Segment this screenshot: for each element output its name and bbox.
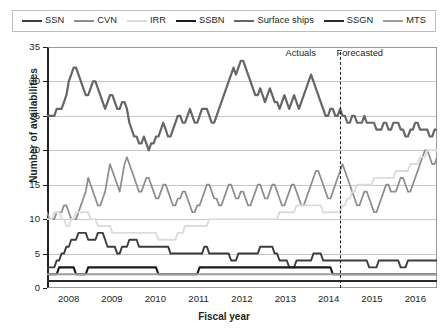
- series-svg: [47, 47, 437, 288]
- x-axis-title: Fiscal year: [0, 311, 448, 322]
- legend-swatch-icon: [74, 20, 94, 22]
- legend-label: SSN: [45, 16, 64, 26]
- legend-item-ssbn[interactable]: SSBN: [176, 16, 224, 26]
- legend-label: MTS: [406, 16, 426, 26]
- annotation-forecasted: Forecasted: [337, 48, 384, 58]
- legend-swatch-icon: [22, 20, 42, 22]
- legend-label: SSGN: [347, 16, 373, 26]
- x-tick-label: 2016: [393, 293, 437, 304]
- chart-root: SSNCVNIRRSSBNSurface shipsSSGNMTS 051015…: [0, 0, 448, 331]
- chart-legend: SSNCVNIRRSSBNSurface shipsSSGNMTS: [12, 10, 436, 32]
- annotation-actuals: Actuals: [286, 48, 317, 58]
- legend-label: SSBN: [199, 16, 224, 26]
- legend-label: Surface ships: [257, 16, 313, 26]
- legend-item-irr[interactable]: IRR: [127, 16, 166, 26]
- legend-label: IRR: [150, 16, 166, 26]
- legend-swatch-icon: [127, 20, 147, 22]
- x-tick-label: 2015: [350, 293, 394, 304]
- series-line-ssbn: [47, 267, 437, 274]
- series-line-ssn: [47, 233, 437, 267]
- legend-item-surface-ships[interactable]: Surface ships: [234, 16, 313, 26]
- y-tick-mark: [43, 288, 47, 289]
- x-tick-label: 2013: [263, 293, 307, 304]
- x-tick-label: 2010: [133, 293, 177, 304]
- series-line-surface-ships: [47, 61, 437, 151]
- x-tick-label: 2012: [220, 293, 264, 304]
- y-tick-label: 5: [10, 248, 40, 259]
- legend-label: CVN: [97, 16, 117, 26]
- series-line-cvn: [47, 150, 437, 219]
- legend-item-mts[interactable]: MTS: [383, 16, 426, 26]
- legend-item-cvn[interactable]: CVN: [74, 16, 117, 26]
- y-tick-label: 0: [10, 282, 40, 293]
- forecast-divider: [340, 52, 341, 288]
- legend-item-ssn[interactable]: SSN: [22, 16, 64, 26]
- x-tick-label: 2011: [177, 293, 221, 304]
- series-layer: [47, 47, 437, 288]
- series-line-irr: [47, 150, 437, 240]
- x-tick-label: 2014: [307, 293, 351, 304]
- x-tick-label: 2009: [90, 293, 134, 304]
- x-tick-label: 2008: [47, 293, 91, 304]
- legend-item-ssgn[interactable]: SSGN: [324, 16, 373, 26]
- legend-swatch-icon: [234, 20, 254, 22]
- legend-swatch-icon: [383, 20, 403, 22]
- legend-swatch-icon: [324, 20, 344, 22]
- y-axis-title: Number of availabilities: [28, 36, 39, 216]
- legend-swatch-icon: [176, 20, 196, 22]
